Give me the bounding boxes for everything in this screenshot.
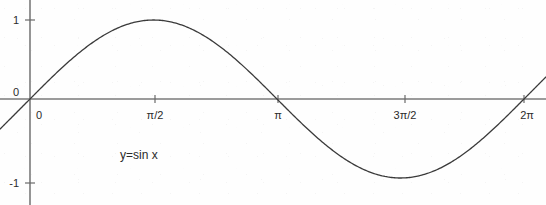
x-axis-tick-label-2pi: 2π [520,110,534,121]
y-axis-tick-label-1: 1 [3,15,19,26]
x-axis-tick-label-pi-over-2: π/2 [147,110,164,121]
y-axis-tick-label-0: 0 [3,87,19,98]
x-axis-tick-label-pi: π [274,110,282,121]
equation-annotation: y=sin x [120,149,158,161]
y-axis-tick-label-neg1: -1 [1,178,19,189]
x-axis-tick-label-3pi-over-2: 3π/2 [394,110,417,121]
sine-curve-figure: 1 0 -1 0 π/2 π 3π/2 2π y=sin x [0,0,546,205]
x-axis-tick-label-0: 0 [36,110,42,121]
plot-area [0,0,546,205]
